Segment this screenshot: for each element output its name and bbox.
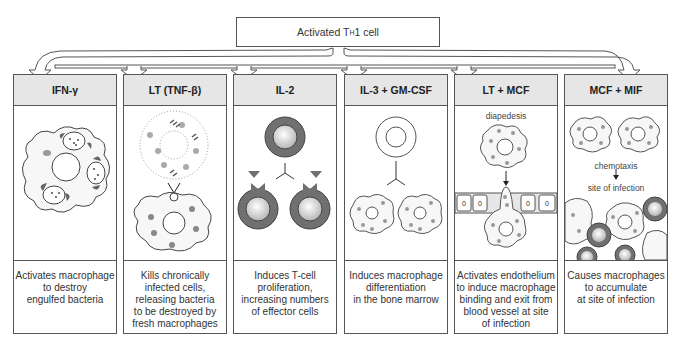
column-lt-tnf-beta: LT (TNF-β) [123,74,227,261]
column-header: IL-2 [234,75,336,106]
column-description: Induces T-cell proliferation, increasing… [233,261,337,334]
column-description: Induces macrophage differentiation in th… [344,261,448,334]
svg-text:0: 0 [545,200,549,207]
column-ifn-gamma: IFN-γ [13,74,117,261]
column-il-2: IL-2 [233,74,337,261]
t-cell-proliferation-illustration [234,105,336,260]
column-description: Activates macrophage to destroy engulfed… [13,261,117,334]
column-header: IL-3 + GM-CSF [345,75,447,106]
column-description: Activates endothelium to induce macropha… [454,261,558,334]
macrophage-differentiation-illustration [345,105,447,260]
diapedesis-illustration: 0000 [455,105,557,260]
column-lt-mcf: LT + MCF diapedesis 0000 [454,74,558,261]
svg-text:0: 0 [462,200,466,207]
column-description: Kills chronically infected cells, releas… [123,261,227,334]
site-of-infection-label: site of infection [565,183,667,193]
column-description: Causes macrophages to accumulate at site… [564,261,668,334]
activated-macrophage-illustration [14,105,116,260]
column-il-3-gm-csf: IL-3 + GM-CSF [344,74,448,261]
svg-text:0: 0 [478,200,482,207]
branch-arrows [0,0,677,80]
chemotaxis-label: chemotaxis [565,161,667,171]
column-header: LT (TNF-β) [124,75,226,106]
column-mcf-mif: MCF + MIF chemotaxis site of infection [564,74,668,261]
infected-cell-lysis-illustration [124,105,226,260]
column-header: IFN-γ [14,75,116,106]
svg-text:0: 0 [526,200,530,207]
column-header: LT + MCF [455,75,557,106]
column-header: MCF + MIF [565,75,667,106]
